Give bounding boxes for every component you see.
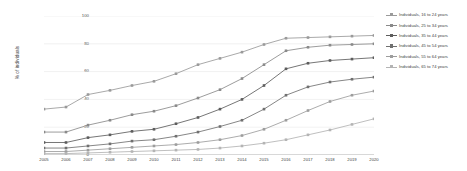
data-point-marker [87,145,90,148]
legend-label: Individuals, 35 to 44 years [399,34,448,38]
data-point-marker [373,118,374,121]
data-point-marker [219,147,222,150]
data-point-marker [65,106,68,109]
x-tick-label: 2011 [165,158,187,162]
chart-legend: Individuals, 16 to 24 yearsIndividuals, … [386,10,466,72]
legend-label: Individuals, 16 to 24 years [399,13,448,17]
data-point-marker [285,37,288,40]
data-point-marker [131,140,134,143]
series-line [44,44,374,132]
series-3 [44,56,374,143]
series-line [44,77,374,148]
x-tick-label: 2017 [297,158,319,162]
data-point-marker [87,136,90,139]
line-chart-figure: % of individuals 020406080100 2005200620… [0,0,467,171]
data-point-marker [373,56,374,59]
data-point-marker [65,152,68,155]
data-point-marker [329,81,332,84]
data-point-marker [219,138,222,141]
data-point-marker [44,152,45,155]
series-line [44,58,374,143]
data-point-marker [263,142,266,145]
x-tick-label: 2016 [275,158,297,162]
data-point-marker [373,43,374,46]
data-point-marker [109,151,112,154]
data-point-marker [351,58,354,61]
data-point-marker [307,109,310,112]
data-point-marker [197,97,200,100]
x-tick-label: 2018 [319,158,341,162]
legend-swatch-icon [386,43,397,50]
legend-swatch-icon [386,64,397,71]
data-point-marker [329,59,332,62]
data-point-marker [329,36,332,39]
data-point-marker [87,93,90,96]
plot-area [44,16,374,155]
legend-swatch-icon [386,22,397,29]
data-point-marker [241,145,244,148]
x-tick-label: 2020 [363,158,385,162]
legend-item[interactable]: Individuals, 16 to 24 years [386,10,466,20]
data-point-marker [153,150,156,153]
legend-item[interactable]: Individuals, 55 to 64 years [386,52,466,62]
data-point-marker [44,147,45,150]
data-point-marker [307,134,310,137]
data-point-marker [131,150,134,153]
data-point-marker [44,141,45,144]
data-point-marker [263,43,266,46]
data-point-marker [175,72,178,75]
data-point-marker [109,119,112,122]
series-line [44,35,374,109]
data-point-marker [175,122,178,125]
data-point-marker [197,141,200,144]
data-point-marker [307,46,310,49]
legend-label: Individuals, 55 to 64 years [399,55,448,59]
data-point-marker [109,134,112,137]
data-point-marker [263,128,266,131]
data-point-marker [175,149,178,152]
data-point-marker [65,147,68,150]
legend-label: Individuals, 45 to 54 years [399,44,448,48]
x-tick-label: 2007 [77,158,99,162]
legend-item[interactable]: Individuals, 45 to 54 years [386,41,466,51]
data-point-marker [307,86,310,89]
series-2 [44,43,374,134]
data-point-marker [131,113,134,116]
data-point-marker [65,131,68,134]
legend-item[interactable]: Individuals, 65 to 74 years [386,62,466,72]
data-point-marker [109,89,112,92]
data-point-marker [373,90,374,93]
data-point-marker [87,149,90,152]
data-point-marker [153,110,156,113]
y-axis-title: % of individuals [15,23,20,103]
data-point-marker [285,138,288,141]
data-point-marker [153,145,156,148]
data-point-marker [44,108,45,111]
data-point-marker [153,128,156,131]
legend-swatch-icon [386,53,397,60]
data-point-marker [285,94,288,97]
data-point-marker [197,63,200,66]
data-point-marker [351,43,354,46]
chart-svg [44,16,374,155]
data-point-marker [175,135,178,138]
x-tick-label: 2012 [187,158,209,162]
legend-label: Individuals, 65 to 74 years [399,65,448,69]
series-4 [44,76,374,149]
data-point-marker [153,138,156,141]
data-point-marker [44,131,45,134]
data-point-marker [351,94,354,97]
x-tick-label: 2005 [33,158,55,162]
data-point-marker [197,148,200,151]
legend-item[interactable]: Individuals, 35 to 44 years [386,31,466,41]
data-point-marker [285,49,288,52]
data-point-marker [65,141,68,144]
data-point-marker [109,143,112,146]
series-6 [44,118,374,155]
data-point-marker [329,100,332,103]
x-tick-label: 2019 [341,158,363,162]
data-point-marker [285,119,288,122]
data-point-marker [329,44,332,47]
data-point-marker [351,78,354,81]
legend-item[interactable]: Individuals, 25 to 34 years [386,20,466,30]
